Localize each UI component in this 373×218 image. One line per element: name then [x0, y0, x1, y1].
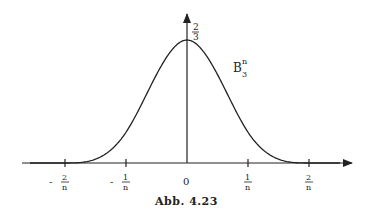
svg-text:n: n	[242, 57, 247, 66]
svg-text:1: 1	[123, 173, 128, 182]
svg-text:n: n	[306, 183, 311, 192]
tick-label-neg2: - 2 n	[49, 173, 69, 192]
tick-label-zero: 0	[183, 176, 189, 187]
svg-text:B: B	[233, 61, 242, 75]
svg-text:3: 3	[193, 32, 199, 42]
tick-label-pos2: 2 n	[305, 173, 313, 192]
b-spline-figure: 2 3 B n 3 - 2 n - 1 n 0 1 n 2 n	[0, 0, 373, 218]
svg-text:n: n	[62, 183, 67, 192]
tick-label-pos1: 1 n	[244, 173, 252, 192]
tick-label-neg1: - 1 n	[110, 173, 130, 192]
svg-text:-: -	[49, 176, 52, 187]
svg-text:2: 2	[62, 173, 67, 182]
figure-caption: Abb. 4.23	[0, 195, 373, 208]
svg-text:n: n	[245, 183, 250, 192]
svg-text:2: 2	[193, 22, 199, 32]
y-peak-label: 2 3	[192, 22, 199, 42]
svg-text:3: 3	[242, 70, 247, 79]
svg-text:2: 2	[306, 173, 311, 182]
bspline-curve	[30, 40, 340, 163]
svg-text:1: 1	[245, 173, 250, 182]
svg-text:0: 0	[183, 176, 189, 187]
curve-label: B n 3	[233, 57, 247, 79]
svg-text:n: n	[123, 183, 128, 192]
svg-text:-: -	[110, 176, 113, 187]
